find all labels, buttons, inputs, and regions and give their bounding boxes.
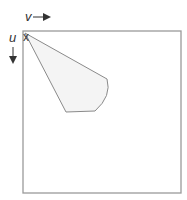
origin-marker: x — [23, 30, 29, 44]
v-axis-label: v — [25, 9, 33, 24]
u-axis-label: u — [9, 30, 16, 45]
diagram-canvas: v u x — [0, 0, 187, 200]
